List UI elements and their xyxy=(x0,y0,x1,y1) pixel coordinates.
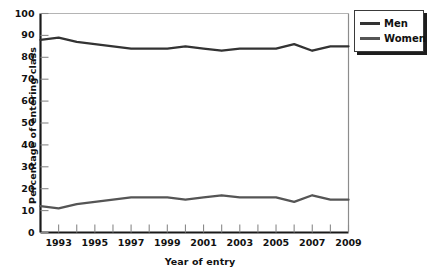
data-series-group xyxy=(41,38,349,209)
x-tick-label: 2009 xyxy=(329,237,369,248)
x-tick-label: 1999 xyxy=(147,237,187,248)
series-line-men xyxy=(41,38,349,51)
x-tick-label: 2007 xyxy=(292,237,332,248)
legend-item-label: Men xyxy=(384,18,408,29)
x-tick-label: 2005 xyxy=(256,237,296,248)
legend-item-women[interactable]: Women xyxy=(360,31,419,46)
legend-item-label: Women xyxy=(384,33,426,44)
x-tick-label: 2003 xyxy=(220,237,260,248)
chart-figure: 0102030405060708090100 19931995199719992… xyxy=(0,0,431,274)
x-tick-label: 1993 xyxy=(39,237,79,248)
chart-legend: MenWomen xyxy=(354,10,424,52)
legend-item-men[interactable]: Men xyxy=(360,16,419,31)
y-tick-label: 0 xyxy=(7,227,35,238)
y-tick-label: 90 xyxy=(7,29,35,40)
x-tick-label: 1997 xyxy=(111,237,151,248)
x-tick-label: 1995 xyxy=(75,237,115,248)
y-tick-label: 10 xyxy=(7,205,35,216)
x-tick-label: 2001 xyxy=(184,237,224,248)
y-axis-title: Percentage of entering class xyxy=(27,46,38,206)
x-axis-title: Year of entry xyxy=(120,256,280,267)
legend-line-swatch xyxy=(360,37,380,40)
legend-line-swatch xyxy=(360,22,380,25)
y-tick-label: 100 xyxy=(7,8,35,19)
series-line-women xyxy=(41,195,349,208)
